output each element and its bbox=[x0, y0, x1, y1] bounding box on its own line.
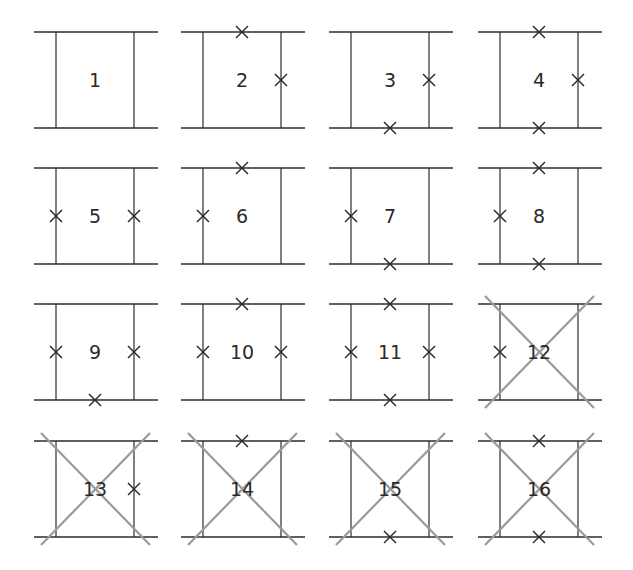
panel-12: 12 bbox=[478, 296, 602, 408]
panel-label: 12 bbox=[527, 341, 551, 363]
panels-grid: 12345678910111213141516 bbox=[34, 26, 602, 545]
panel-4: 4 bbox=[478, 26, 602, 134]
panel-8: 8 bbox=[478, 162, 602, 270]
panel-7: 7 bbox=[329, 168, 453, 270]
panel-6: 6 bbox=[181, 162, 305, 264]
panel-label: 16 bbox=[527, 478, 551, 500]
panel-label: 6 bbox=[236, 205, 248, 227]
panel-5: 5 bbox=[34, 168, 158, 264]
diagram-canvas: 12345678910111213141516 bbox=[0, 0, 633, 570]
panel-label: 2 bbox=[236, 69, 248, 91]
panel-label: 3 bbox=[384, 69, 396, 91]
panel-label: 7 bbox=[384, 205, 396, 227]
panel-14: 14 bbox=[181, 433, 305, 545]
panel-9: 9 bbox=[34, 304, 158, 406]
panel-label: 8 bbox=[533, 205, 545, 227]
panel-label: 5 bbox=[89, 205, 101, 227]
panel-3: 3 bbox=[329, 32, 453, 134]
panel-1: 1 bbox=[34, 32, 158, 128]
panel-label: 11 bbox=[378, 341, 402, 363]
panel-10: 10 bbox=[181, 298, 305, 400]
panel-16: 16 bbox=[478, 433, 602, 545]
panel-label: 4 bbox=[533, 69, 545, 91]
panel-15: 15 bbox=[329, 433, 453, 545]
panel-11: 11 bbox=[329, 298, 453, 406]
panel-label: 9 bbox=[89, 341, 101, 363]
panel-13: 13 bbox=[34, 433, 158, 545]
panel-label: 15 bbox=[378, 478, 402, 500]
panel-label: 14 bbox=[230, 478, 254, 500]
panel-label: 13 bbox=[83, 478, 107, 500]
panel-2: 2 bbox=[181, 26, 305, 128]
panel-label: 1 bbox=[89, 69, 101, 91]
panel-label: 10 bbox=[230, 341, 254, 363]
